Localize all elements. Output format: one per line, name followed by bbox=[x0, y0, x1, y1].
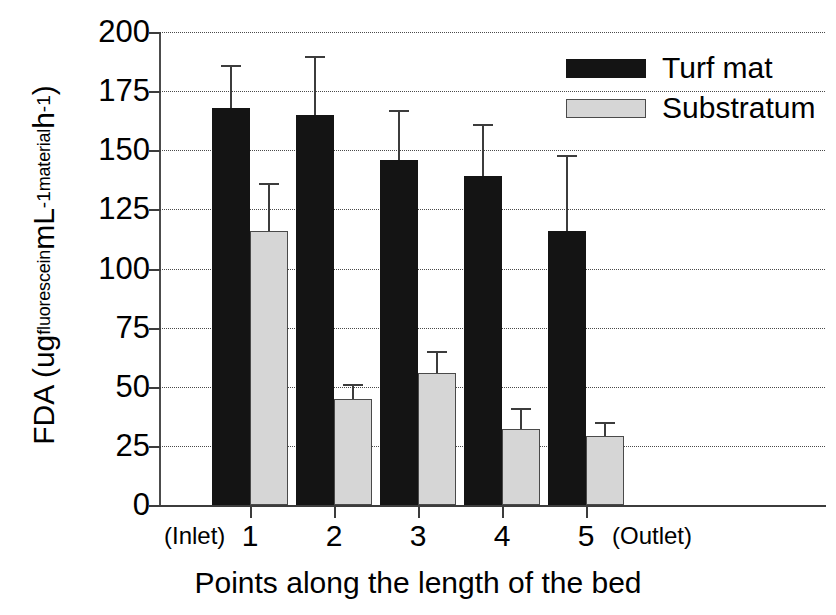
y-tick-mark bbox=[149, 269, 161, 271]
error-bar-line bbox=[482, 124, 484, 176]
error-bar-cap bbox=[259, 183, 279, 185]
error-bar-line bbox=[604, 422, 606, 436]
error-bar-cap bbox=[473, 124, 493, 126]
error-bar-line bbox=[352, 384, 354, 398]
x-axis-outlet-label: (Outlet) bbox=[612, 519, 692, 553]
error-bar-cap bbox=[511, 408, 531, 410]
error-bar-line bbox=[230, 65, 232, 108]
y-tick-label: 75 bbox=[40, 312, 150, 343]
x-tick-label-4: 4 bbox=[494, 519, 511, 553]
error-bar-line bbox=[398, 110, 400, 160]
y-tick-mark bbox=[149, 150, 161, 152]
error-bar-line bbox=[314, 56, 316, 115]
y-tick-label: 125 bbox=[40, 193, 150, 224]
legend-label-substratum: Substratum bbox=[662, 93, 815, 123]
bar-turf-mat-2 bbox=[296, 115, 334, 505]
legend-item-turf-mat: Turf mat bbox=[566, 48, 828, 88]
y-tick-mark bbox=[149, 446, 161, 448]
legend-swatch-substratum bbox=[566, 99, 646, 118]
error-bar-cap bbox=[389, 110, 409, 112]
error-bar-cap bbox=[343, 384, 363, 386]
bar-substratum-1 bbox=[250, 231, 288, 505]
y-tick-label: 25 bbox=[40, 430, 150, 461]
x-tick-mark bbox=[418, 505, 420, 518]
y-tick-label: 150 bbox=[40, 134, 150, 165]
y-tick-mark bbox=[149, 91, 161, 93]
error-bar-line bbox=[436, 351, 438, 372]
bar-turf-mat-4 bbox=[464, 176, 502, 505]
error-bar-line bbox=[566, 155, 568, 231]
legend-label-turf-mat: Turf mat bbox=[662, 53, 773, 83]
x-axis-inlet-label: (Inlet) bbox=[164, 519, 225, 553]
error-bar-cap bbox=[557, 155, 577, 157]
y-tick-mark bbox=[149, 505, 161, 507]
y-tick-label: 50 bbox=[40, 371, 150, 402]
x-tick-mark bbox=[586, 505, 588, 518]
error-bar-cap bbox=[595, 422, 615, 424]
error-bar-cap bbox=[305, 56, 325, 58]
bar-substratum-3 bbox=[418, 373, 456, 505]
x-tick-label-2: 2 bbox=[326, 519, 343, 553]
legend-swatch-turf-mat bbox=[566, 59, 646, 78]
bar-substratum-5 bbox=[586, 436, 624, 505]
y-tick-mark bbox=[149, 328, 161, 330]
bar-turf-mat-1 bbox=[212, 108, 250, 505]
x-axis-tick-labels: 12345(Inlet)(Outlet) bbox=[0, 519, 836, 559]
error-bar-cap bbox=[221, 65, 241, 67]
y-tick-label: 200 bbox=[40, 16, 150, 47]
bar-turf-mat-3 bbox=[380, 160, 418, 505]
x-axis-line bbox=[159, 505, 826, 507]
x-axis-title: Points along the length of the bed bbox=[0, 566, 836, 600]
x-tick-label-1: 1 bbox=[242, 519, 259, 553]
x-tick-label-3: 3 bbox=[410, 519, 427, 553]
x-tick-label-5: 5 bbox=[578, 519, 595, 553]
gridline bbox=[160, 150, 825, 151]
y-tick-mark bbox=[149, 387, 161, 389]
chart-legend: Turf mat Substratum bbox=[566, 48, 828, 128]
x-tick-mark bbox=[334, 505, 336, 518]
legend-item-substratum: Substratum bbox=[566, 88, 828, 128]
x-tick-mark bbox=[502, 505, 504, 518]
y-tick-mark bbox=[149, 209, 161, 211]
error-bar-line bbox=[520, 408, 522, 429]
y-tick-mark bbox=[149, 32, 161, 34]
y-tick-label: 175 bbox=[40, 75, 150, 106]
bar-substratum-4 bbox=[502, 429, 540, 505]
y-tick-label: 100 bbox=[40, 253, 150, 284]
x-tick-mark bbox=[250, 505, 252, 518]
bar-turf-mat-5 bbox=[548, 231, 586, 505]
fda-bar-chart: FDA (ugfluorescein mL-1material h-1) 025… bbox=[0, 0, 836, 615]
y-tick-label: 0 bbox=[40, 489, 150, 520]
error-bar-cap bbox=[427, 351, 447, 353]
gridline bbox=[160, 32, 825, 33]
bar-substratum-2 bbox=[334, 399, 372, 505]
error-bar-line bbox=[268, 183, 270, 230]
